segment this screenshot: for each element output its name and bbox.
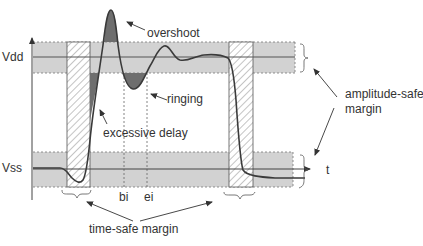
rise-time-brace xyxy=(62,190,91,198)
vss-label: Vss xyxy=(2,161,22,175)
ei-label: ei xyxy=(144,190,153,204)
time-margin-column-fall xyxy=(229,42,253,187)
ringing-label: ringing xyxy=(167,92,203,106)
overshoot-label: overshoot xyxy=(147,26,200,40)
amplitude-margin-arrow-down xyxy=(315,108,334,155)
excessive-delay-label: excessive delay xyxy=(103,126,188,140)
vdd-brace xyxy=(300,44,308,72)
amplitude-safe-margin-label-line2: margin xyxy=(345,102,382,116)
time-axis-label: t xyxy=(326,163,330,177)
time-margin-arrow-left xyxy=(87,202,133,221)
amplitude-margin-arrow-up xyxy=(314,69,337,97)
vss-brace xyxy=(299,155,308,188)
excessive-delay-arrow xyxy=(100,110,107,124)
fall-time-brace xyxy=(224,192,255,199)
ringing-arrow xyxy=(151,94,167,100)
signal-integrity-diagram: Vdd Vss t bi ei overshoot ringing excess… xyxy=(0,0,423,246)
overshoot-arrow xyxy=(127,22,145,30)
time-safe-margin-label: time-safe margin xyxy=(89,222,178,236)
amplitude-safe-margin-label-line1: amplitude-safe xyxy=(345,87,423,101)
vdd-label: Vdd xyxy=(2,50,23,64)
bi-label: bi xyxy=(119,190,128,204)
time-margin-arrow-right xyxy=(140,202,212,221)
